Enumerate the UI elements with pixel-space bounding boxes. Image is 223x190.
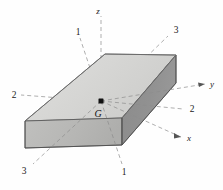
principal-axis-label-1-bottom: 1: [122, 167, 127, 177]
block-front-left-face: [25, 118, 122, 148]
principal-axis-label-1-top: 1: [76, 27, 81, 37]
figure-canvas: z y x 1 1 2 2 3 3 G: [0, 0, 223, 190]
center-of-mass-label: G: [94, 108, 101, 119]
axis-label-x: x: [186, 133, 191, 143]
axis-label-z: z: [95, 6, 100, 16]
arrowhead-y-icon: [198, 83, 205, 88]
arrowhead-x-icon: [174, 133, 181, 139]
principal-axis-label-2-left: 2: [12, 90, 17, 100]
axis-label-y: y: [209, 79, 214, 89]
principal-axis-label-3-top: 3: [174, 25, 179, 35]
center-of-mass-dot: [99, 99, 104, 104]
principal-axis-label-2-right: 2: [190, 104, 195, 114]
block-principal-axes-diagram: z y x 1 1 2 2 3 3 G: [0, 0, 223, 190]
principal-axis-label-3-bottom: 3: [22, 166, 27, 176]
